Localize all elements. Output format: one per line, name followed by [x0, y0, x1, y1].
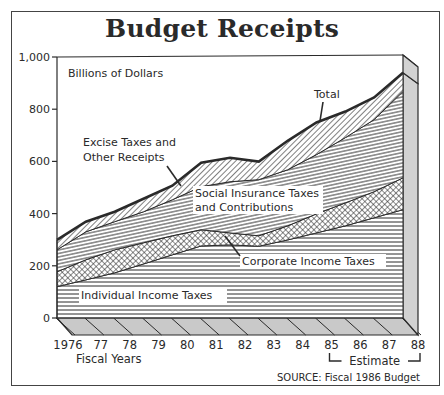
- y-tick-label: 1,000: [19, 51, 51, 64]
- side-face: [403, 73, 418, 335]
- total-leader: [320, 102, 323, 121]
- x-tick-label: 82: [238, 338, 253, 352]
- individual-label: Individual Income Taxes: [81, 289, 213, 302]
- y-axis: 02004006008001,000: [19, 51, 58, 325]
- x-tick-label: 83: [267, 338, 282, 352]
- excise-label-line1: Excise Taxes and: [83, 136, 176, 149]
- x-tick-label: 85: [324, 338, 339, 352]
- x-tick-label: 81: [209, 338, 224, 352]
- source-note: SOURCE: Fiscal 1986 Budget: [277, 372, 420, 383]
- x-tick-label: 87: [382, 338, 397, 352]
- excise-label-line2: Other Receipts: [83, 151, 165, 164]
- y-tick-label: 600: [29, 155, 50, 168]
- total-label: Total: [313, 88, 340, 101]
- estimate-bracket-left: [330, 353, 342, 361]
- x-axis-title: Fiscal Years: [76, 352, 142, 366]
- social-label-line2: and Contributions: [195, 201, 293, 214]
- x-tick-label: 78: [122, 338, 137, 352]
- x-tick-label: 77: [94, 338, 109, 352]
- y-tick-label: 0: [43, 312, 50, 325]
- x-tick-label: 79: [151, 338, 166, 352]
- estimate-bracket-right: [408, 353, 420, 361]
- stacked-area-chart: 02004006008001,000 197677787980818283848…: [0, 0, 444, 395]
- x-tick-label: 88: [411, 338, 426, 352]
- y-tick-label: 200: [29, 260, 50, 273]
- unit-label: Billions of Dollars: [68, 67, 163, 80]
- x-tick-label: 80: [180, 338, 195, 352]
- y-tick-label: 800: [29, 103, 50, 116]
- y-tick-label: 400: [29, 208, 50, 221]
- back-wall-top: [57, 55, 403, 57]
- floor-plane: [57, 318, 418, 335]
- x-axis: 1976777879808182838485868788Fiscal Years…: [53, 338, 425, 383]
- x-tick-label: 1976: [53, 338, 82, 352]
- estimate-label: Estimate: [349, 354, 400, 368]
- x-tick-label: 84: [295, 338, 310, 352]
- corporate-label: Corporate Income Taxes: [242, 255, 375, 268]
- x-tick-label: 86: [353, 338, 368, 352]
- social-label-line1: Social Insurance Taxes: [195, 187, 319, 200]
